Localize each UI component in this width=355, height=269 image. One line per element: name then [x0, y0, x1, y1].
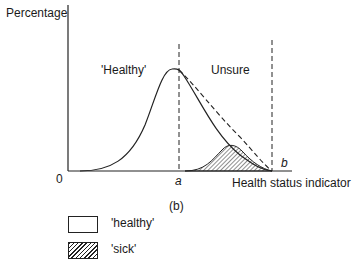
- panel-label: (b): [169, 199, 184, 213]
- marker-a-label: a: [175, 174, 182, 188]
- origin-label: 0: [56, 172, 63, 186]
- diagram-canvas: [0, 0, 355, 269]
- legend-swatch-sick: [68, 242, 98, 259]
- legend-label-sick: 'sick': [111, 242, 136, 256]
- region-unsure-label: Unsure: [211, 63, 250, 77]
- legend-swatch-healthy: [68, 216, 98, 233]
- y-axis-label: Percentage: [6, 6, 67, 20]
- legend-label-healthy: 'healthy': [111, 216, 154, 230]
- x-axis-label: Health status indicator: [232, 176, 351, 190]
- region-healthy-label: 'Healthy': [101, 63, 146, 77]
- marker-b-label: b: [281, 156, 288, 170]
